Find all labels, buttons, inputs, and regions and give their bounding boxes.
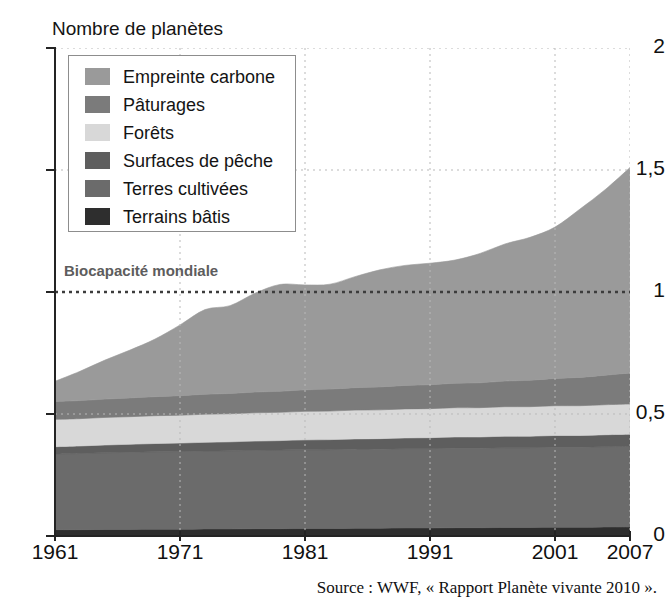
legend-item-label: Surfaces de pêche xyxy=(123,152,273,170)
x-axis-tick-label: 1991 xyxy=(407,540,454,564)
x-axis-tick-mark xyxy=(304,531,306,541)
y-axis-title: Nombre de planètes xyxy=(52,18,223,40)
y-axis-tick-mark xyxy=(46,291,56,293)
x-axis-tick-label: 1971 xyxy=(157,540,204,564)
x-axis-tick-mark xyxy=(54,531,56,541)
y-axis-tick-label: 2 xyxy=(621,34,665,58)
legend-item-label: Empreinte carbone xyxy=(123,68,275,86)
legend-item-label: Terres cultivées xyxy=(123,180,248,198)
legend-swatch-icon xyxy=(85,124,110,141)
legend-item: Surfaces de pêche xyxy=(85,147,295,174)
x-axis-line xyxy=(54,535,631,537)
legend-item: Empreinte carbone xyxy=(85,63,295,90)
legend-swatch-icon xyxy=(85,68,110,85)
x-axis-tick-mark xyxy=(629,531,631,541)
x-axis-tick-label: 2001 xyxy=(532,540,579,564)
legend-item-label: Terrains bâtis xyxy=(123,208,230,226)
area-series-terres-cultiv-es xyxy=(55,446,630,529)
legend-swatch-icon xyxy=(85,96,110,113)
y-axis-tick-mark xyxy=(46,413,56,415)
x-axis-tick-mark xyxy=(179,531,181,541)
legend-item: Terrains bâtis xyxy=(85,203,295,230)
biocapacity-annotation-label: Biocapacité mondiale xyxy=(64,262,218,279)
source-note: Source : WWF, « Rapport Planète vivante … xyxy=(0,578,657,598)
legend-item: Pâturages xyxy=(85,91,295,118)
y-axis-tick-label: 1,5 xyxy=(621,156,665,180)
legend-swatch-icon xyxy=(85,208,110,225)
x-axis-tick-label: 2007 xyxy=(607,540,654,564)
legend-item: Forêts xyxy=(85,119,295,146)
chart-legend: Empreinte carbone Pâturages Forêts Surfa… xyxy=(68,55,296,232)
x-axis-tick-mark xyxy=(554,531,556,541)
y-axis-tick-label: 0,5 xyxy=(621,400,665,424)
legend-swatch-icon xyxy=(85,180,110,197)
legend-item-label: Forêts xyxy=(123,124,174,142)
y-axis-tick-label: 1 xyxy=(621,278,665,302)
legend-item-label: Pâturages xyxy=(123,96,205,114)
y-axis-tick-mark xyxy=(46,47,56,49)
chart-figure: Nombre de planètes 00,511,52196119711981… xyxy=(0,0,665,613)
x-axis-tick-mark xyxy=(429,531,431,541)
legend-item: Terres cultivées xyxy=(85,175,295,202)
x-axis-tick-label: 1961 xyxy=(32,540,79,564)
x-axis-tick-label: 1981 xyxy=(282,540,329,564)
y-axis-tick-mark xyxy=(46,169,56,171)
legend-swatch-icon xyxy=(85,152,110,169)
scan-edge xyxy=(0,0,665,6)
